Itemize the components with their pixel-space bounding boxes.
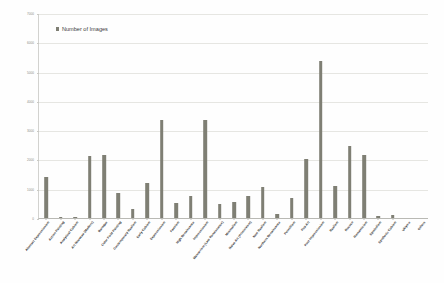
x-tick-mark bbox=[219, 218, 220, 220]
bar-slot bbox=[140, 14, 154, 218]
bar-slot bbox=[313, 14, 327, 218]
y-tick-label: 4000 bbox=[4, 100, 34, 103]
bar[interactable] bbox=[261, 187, 265, 218]
bar[interactable] bbox=[203, 120, 207, 218]
x-axis-label: Others bbox=[417, 221, 426, 231]
bar-slot bbox=[241, 14, 255, 218]
bar[interactable] bbox=[174, 203, 178, 218]
bar-slot bbox=[111, 14, 125, 218]
bar[interactable] bbox=[117, 193, 121, 218]
bar-slot bbox=[183, 14, 197, 218]
bar[interactable] bbox=[189, 196, 193, 218]
bar-slot bbox=[357, 14, 371, 218]
bar-slot bbox=[256, 14, 270, 218]
bar-chart: 01000200030004000500060007000 Abstract E… bbox=[0, 0, 444, 283]
bar-slot bbox=[386, 14, 400, 218]
bar[interactable] bbox=[247, 196, 251, 218]
bar[interactable] bbox=[319, 61, 323, 218]
y-tick-label: 7000 bbox=[4, 13, 34, 16]
bar-slot bbox=[97, 14, 111, 218]
bar-slot bbox=[328, 14, 342, 218]
x-axis-label: Pointillism bbox=[284, 221, 297, 236]
bar[interactable] bbox=[362, 155, 366, 218]
bar-slot bbox=[198, 14, 212, 218]
y-tick-label: 1000 bbox=[4, 188, 34, 191]
bar[interactable] bbox=[131, 209, 135, 218]
bar-slot bbox=[342, 14, 356, 218]
x-axis-label: Abstract Expressionism bbox=[25, 221, 50, 252]
bar-slot bbox=[169, 14, 183, 218]
y-tick-label: 5000 bbox=[4, 71, 34, 74]
bar[interactable] bbox=[88, 156, 92, 218]
y-tick-label: 3000 bbox=[4, 130, 34, 133]
legend-label: Number of Images bbox=[62, 26, 108, 32]
bar[interactable] bbox=[348, 146, 352, 218]
bar[interactable] bbox=[333, 186, 337, 218]
y-tick-mark bbox=[37, 219, 39, 220]
chart-legend: Number of Images bbox=[56, 26, 108, 32]
bar[interactable] bbox=[232, 202, 236, 218]
bar-series bbox=[39, 14, 428, 218]
bar-slot bbox=[68, 14, 82, 218]
x-axis-label: Romanticism bbox=[354, 221, 369, 239]
x-tick-mark bbox=[349, 218, 350, 220]
bar[interactable] bbox=[218, 204, 222, 218]
bar-slot bbox=[39, 14, 53, 218]
x-tick-mark bbox=[89, 218, 90, 220]
bar[interactable] bbox=[160, 120, 164, 218]
x-axis-label: Fauvism bbox=[170, 221, 181, 233]
x-axis-label: Pop Art bbox=[301, 221, 311, 232]
bar-slot bbox=[270, 14, 284, 218]
x-axis-label: Rococo bbox=[344, 221, 354, 232]
bar-slot bbox=[227, 14, 241, 218]
bar[interactable] bbox=[102, 155, 106, 218]
bar-slot bbox=[371, 14, 385, 218]
y-tick-label: 0 bbox=[4, 218, 34, 221]
y-tick-label: 2000 bbox=[4, 159, 34, 162]
plot-area: 01000200030004000500060007000 bbox=[38, 14, 428, 219]
bar-slot bbox=[299, 14, 313, 218]
bar[interactable] bbox=[44, 177, 48, 218]
x-axis-label: Realism bbox=[329, 221, 339, 233]
bar-slot bbox=[126, 14, 140, 218]
x-axis-label: Symbolism bbox=[370, 221, 383, 237]
bar[interactable] bbox=[304, 159, 308, 218]
x-axis-label: Expressionism bbox=[150, 221, 167, 241]
x-axis-label: Mannerism (Late Renaissance) bbox=[192, 221, 224, 260]
bar-slot bbox=[212, 14, 226, 218]
x-axis-label: Ukiyo-e bbox=[402, 221, 412, 232]
bar-slot bbox=[53, 14, 67, 218]
legend-swatch-icon bbox=[56, 27, 59, 30]
y-tick-label: 6000 bbox=[4, 42, 34, 45]
bar-slot bbox=[285, 14, 299, 218]
x-axis-label: Baroque bbox=[98, 221, 109, 233]
bar-slot bbox=[155, 14, 169, 218]
bar[interactable] bbox=[146, 183, 150, 218]
x-axis-labels: Abstract ExpressionismAction PaintingAna… bbox=[38, 221, 428, 281]
bar-slot bbox=[82, 14, 96, 218]
bar[interactable] bbox=[290, 198, 294, 218]
